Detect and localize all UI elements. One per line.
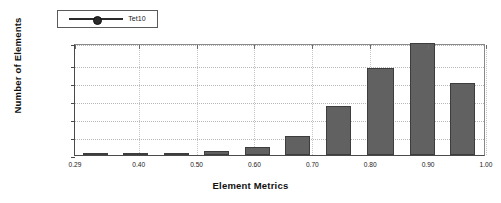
bar — [204, 151, 229, 155]
bar — [367, 68, 394, 155]
x-tick-label: 1.00 — [466, 161, 501, 168]
y-tick-mark — [71, 121, 75, 122]
x-tick-label: 0.80 — [350, 161, 390, 168]
legend-label-tet10: Tet10 — [128, 15, 146, 23]
x-tick-mark — [370, 45, 371, 49]
x-tick-mark — [312, 45, 313, 49]
x-tick-label: 0.29 — [55, 161, 95, 168]
bar — [285, 136, 310, 155]
bar — [245, 147, 270, 155]
x-tick-mark — [254, 45, 255, 49]
y-tick-mark — [71, 103, 75, 104]
x-tick-label: 0.70 — [292, 161, 332, 168]
chart-figure: Tet10 Number of Elements Element Metrics… — [0, 0, 501, 203]
y-tick-mark — [71, 139, 75, 140]
legend-circle-marker-icon — [93, 16, 102, 25]
x-tick-mark — [139, 45, 140, 49]
plot-area: 0.004000.008000.0012000.0016000.0020000.… — [74, 44, 485, 156]
y-tick-mark — [71, 85, 75, 86]
x-tick-label: 0.40 — [119, 161, 159, 168]
y-tick-mark — [71, 67, 75, 68]
bar — [410, 43, 435, 155]
x-tick-mark — [75, 45, 76, 49]
bar-series-tet10 — [75, 45, 484, 155]
legend-line-swatch — [69, 18, 123, 20]
x-tick-label: 0.90 — [408, 161, 448, 168]
x-tick-label: 0.50 — [177, 161, 217, 168]
x-axis-title: Element Metrics — [0, 180, 501, 191]
bar — [450, 83, 475, 155]
bar — [326, 106, 351, 155]
x-tick-mark — [197, 45, 198, 49]
x-tick-label: 0.60 — [234, 161, 274, 168]
y-tick-mark — [71, 157, 75, 158]
x-tick-mark — [428, 45, 429, 49]
x-tick-mark — [486, 45, 487, 49]
y-axis-title: Number of Elements — [12, 11, 23, 121]
x-gridline — [486, 45, 487, 155]
bar — [83, 153, 108, 156]
bar — [164, 153, 189, 156]
chart-legend: Tet10 — [57, 10, 158, 28]
bar — [123, 153, 148, 156]
